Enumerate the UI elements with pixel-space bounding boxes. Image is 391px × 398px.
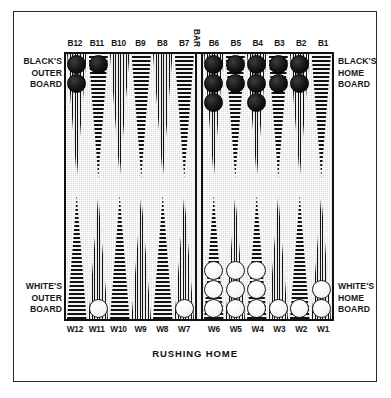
bottom-label-7: W5 (225, 322, 247, 336)
point-b8[interactable] (152, 54, 174, 185)
point-triangle-w10 (110, 195, 130, 319)
checker-stack-w2[interactable] (289, 299, 311, 318)
point-b6[interactable] (203, 54, 225, 185)
point-b7[interactable] (174, 54, 196, 185)
white-checker[interactable] (204, 299, 223, 318)
black-checker[interactable] (269, 55, 288, 74)
black-checker[interactable] (226, 55, 245, 74)
point-b2[interactable] (289, 54, 311, 185)
top-label-4: B8 (151, 36, 173, 50)
white-checker[interactable] (204, 280, 223, 299)
caption-blacks-outer-board: BLACK'SOUTERBOARD (16, 56, 62, 91)
black-checker[interactable] (290, 74, 309, 93)
checker-stack-b5[interactable] (225, 55, 247, 93)
figure-caption: RUSHING HOME (13, 348, 377, 359)
white-checker[interactable] (226, 280, 245, 299)
point-b11[interactable] (88, 54, 110, 185)
point-fill (110, 195, 130, 319)
white-checker[interactable] (247, 280, 266, 299)
point-w3[interactable] (268, 188, 290, 319)
black-checker[interactable] (247, 74, 266, 93)
white-checker[interactable] (226, 261, 245, 280)
point-b1[interactable] (311, 54, 333, 185)
point-b5[interactable] (225, 54, 247, 185)
point-b10[interactable] (109, 54, 131, 185)
top-label-10: B2 (290, 36, 312, 50)
point-w6[interactable] (203, 188, 225, 319)
white-checker[interactable] (247, 299, 266, 318)
checker-stack-w1[interactable] (311, 280, 333, 318)
black-checker[interactable] (67, 55, 86, 74)
point-fill (175, 54, 195, 178)
white-checker[interactable] (89, 299, 108, 318)
quadrant-white-home (203, 188, 332, 319)
point-w9[interactable] (131, 188, 153, 319)
point-b4[interactable] (246, 54, 268, 185)
white-checker[interactable] (175, 299, 194, 318)
checker-stack-b4[interactable] (246, 55, 268, 112)
point-fill (110, 54, 130, 178)
bottom-label-bar-gap (195, 322, 203, 336)
top-label-9: B3 (268, 36, 290, 50)
bottom-label-8: W4 (247, 322, 269, 336)
checker-stack-b2[interactable] (289, 55, 311, 93)
point-fill (312, 54, 332, 178)
white-checker[interactable] (204, 261, 223, 280)
point-fill (132, 54, 152, 178)
caption-whites-outer-board: WHITE'SOUTERBOARD (16, 281, 62, 316)
point-b12[interactable] (66, 54, 88, 185)
point-w1[interactable] (311, 188, 333, 319)
point-w10[interactable] (109, 188, 131, 319)
point-w7[interactable] (174, 188, 196, 319)
checker-stack-w5[interactable] (225, 261, 247, 318)
white-checker[interactable] (269, 299, 288, 318)
checker-stack-b6[interactable] (203, 55, 225, 112)
white-checker[interactable] (247, 261, 266, 280)
bar-label: BAR (190, 22, 204, 54)
white-checker[interactable] (312, 280, 331, 299)
white-checker[interactable] (226, 299, 245, 318)
point-fill (153, 195, 173, 319)
white-checker[interactable] (312, 299, 331, 318)
point-b3[interactable] (268, 54, 290, 185)
black-checker[interactable] (269, 74, 288, 93)
black-checker[interactable] (89, 55, 108, 74)
black-checker[interactable] (204, 74, 223, 93)
point-b9[interactable] (131, 54, 153, 185)
point-w12[interactable] (66, 188, 88, 319)
point-w11[interactable] (88, 188, 110, 319)
point-fill (67, 195, 87, 319)
quadrant-black-outer (66, 54, 195, 185)
point-w5[interactable] (225, 188, 247, 319)
checker-stack-w4[interactable] (246, 261, 268, 318)
caption-whites-home-board: WHITE'SHOMEBOARD (338, 281, 388, 316)
bar-divider (195, 54, 203, 319)
checker-stack-w6[interactable] (203, 261, 225, 318)
point-w8[interactable] (152, 188, 174, 319)
bottom-label-4: W8 (151, 322, 173, 336)
bottom-label-10: W2 (290, 322, 312, 336)
checker-stack-w11[interactable] (88, 299, 110, 318)
top-label-11: B1 (312, 36, 334, 50)
black-checker[interactable] (290, 55, 309, 74)
bottom-label-9: W3 (268, 322, 290, 336)
point-triangle-b7 (175, 54, 195, 178)
point-fill (153, 54, 173, 178)
black-checker[interactable] (247, 93, 266, 112)
black-checker[interactable] (204, 55, 223, 74)
point-w2[interactable] (289, 188, 311, 319)
point-w4[interactable] (246, 188, 268, 319)
black-checker[interactable] (226, 74, 245, 93)
checker-stack-b3[interactable] (268, 55, 290, 93)
checker-stack-w3[interactable] (268, 299, 290, 318)
black-checker[interactable] (204, 93, 223, 112)
checker-stack-b11[interactable] (88, 55, 110, 74)
white-checker[interactable] (290, 299, 309, 318)
black-checker[interactable] (67, 74, 86, 93)
checker-stack-b12[interactable] (66, 55, 88, 93)
bottom-point-labels: W12 W11 W10 W9 W8 W7 W6 W5 W4 W3 W2 W1 (64, 322, 334, 336)
caption-blacks-home-board: BLACK'SHOMEBOARD (338, 56, 388, 91)
top-label-1: B11 (86, 36, 108, 50)
black-checker[interactable] (247, 55, 266, 74)
checker-stack-w7[interactable] (174, 299, 196, 318)
